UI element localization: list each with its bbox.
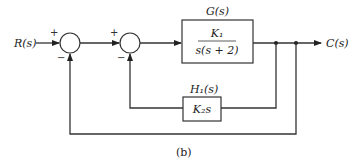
g-numerator: K₁ <box>210 27 224 40</box>
g-denominator: s(s + 2) <box>195 44 238 57</box>
h1-content: K₂s <box>192 103 212 116</box>
h1-block-title: H₁(s) <box>189 83 218 96</box>
input-label: R(s) <box>13 37 37 50</box>
sum1-minus-sign: − <box>57 52 65 63</box>
sum2-plus-sign: + <box>110 27 118 38</box>
g-block-title: G(s) <box>206 5 229 18</box>
block-diagram: R(s) + − + − G(s) K₁ s(s + 2) C(s) H₁(s)… <box>0 0 355 165</box>
output-label: C(s) <box>326 37 349 50</box>
sum1-plus-sign: + <box>50 27 58 38</box>
summing-junction-2 <box>120 33 140 53</box>
inner-feedback-path-left <box>130 54 183 108</box>
figure-caption: (b) <box>176 146 192 159</box>
summing-junction-1 <box>60 33 80 53</box>
sum2-minus-sign: − <box>117 52 125 63</box>
